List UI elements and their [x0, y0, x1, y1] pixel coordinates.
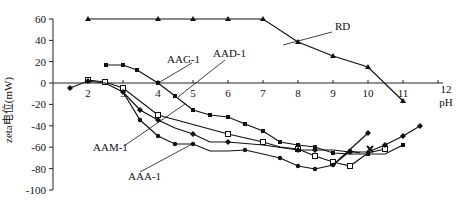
label-aad-1: AAD-1 — [213, 47, 246, 59]
y-tick: -80 — [31, 163, 46, 175]
label-aam-1: AAM-1 — [93, 141, 128, 153]
y-axis-label: zeta电位(mW) — [1, 77, 15, 143]
label-rd: RD — [335, 20, 350, 32]
y-tick: 20 — [35, 56, 47, 68]
x-tick: 5 — [190, 87, 196, 99]
x-tick: 8 — [295, 87, 301, 99]
y-tick: -60 — [31, 141, 46, 153]
label-aag-1: AAG-1 — [167, 53, 200, 65]
x-tick: 7 — [260, 87, 266, 99]
y-tick: -20 — [31, 98, 46, 110]
x-tick: 9 — [330, 87, 336, 99]
x-tick: 10 — [363, 87, 375, 99]
series-aad-1 — [86, 78, 388, 169]
x-tick: 4 — [155, 87, 161, 99]
y-tick: -40 — [31, 120, 46, 132]
x-tick: 6 — [225, 87, 231, 99]
x-tick: 12 — [441, 83, 452, 95]
series-rd — [85, 16, 406, 103]
y-tick: -100 — [26, 184, 47, 196]
y-axis: 60 40 20 0 -20 -40 -60 -80 -100 zeta电位(m… — [1, 13, 53, 196]
y-tick: 40 — [35, 34, 47, 46]
x-tick: 2 — [85, 87, 91, 99]
label-aaa-1: AAA-1 — [128, 170, 161, 182]
x-axis-label: pH — [439, 96, 453, 108]
y-tick: 0 — [41, 77, 47, 89]
series-aag-1 — [104, 63, 405, 156]
y-tick: 60 — [35, 13, 47, 25]
zeta-potential-chart: 60 40 20 0 -20 -40 -60 -80 -100 zeta电位(m… — [0, 0, 462, 200]
